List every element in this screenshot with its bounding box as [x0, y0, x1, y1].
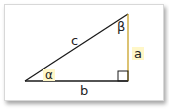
label-c: c [71, 34, 78, 47]
right-angle-marker [118, 71, 128, 81]
label-b: b [80, 84, 88, 97]
label-alpha: α [43, 69, 55, 81]
label-a: a [132, 47, 144, 60]
label-beta: β [117, 20, 125, 33]
